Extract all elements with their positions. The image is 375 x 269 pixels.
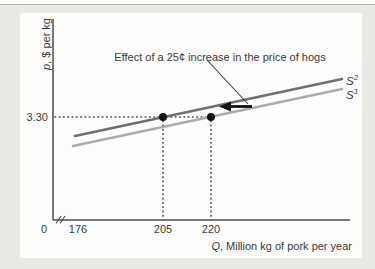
annotation-pointer-line	[207, 60, 248, 104]
x-axis-label-text: , Million kg of pork per year	[220, 240, 352, 252]
equilibrium-dot-s1	[207, 113, 215, 121]
x-axis-label: Q, Million kg of pork per year	[150, 240, 352, 253]
x-axis-symbol: Q	[211, 240, 220, 252]
x-tick-205: 205	[147, 223, 179, 236]
curve-s1-superscript: 1	[354, 87, 358, 96]
x-tick-220: 220	[195, 223, 227, 236]
supply-shift-chart	[0, 0, 375, 269]
supply-curve-s2	[75, 79, 342, 136]
x-tick-0: 0	[36, 223, 52, 236]
curve-s1-letter: S	[346, 89, 354, 101]
y-axis-symbol: p	[40, 64, 52, 70]
curve-label-s1: S1	[346, 85, 358, 102]
equilibrium-dot-s2	[159, 113, 167, 121]
annotation-text: Effect of a 25¢ increase in the price of…	[90, 51, 350, 64]
curve-s2-superscript: 2	[354, 73, 358, 82]
y-axis-label-text: , $ per kg	[40, 18, 52, 64]
y-tick-3-30: 3.30	[14, 111, 48, 124]
x-tick-176: 176	[62, 223, 94, 236]
y-axis-label: p, $ per kg	[40, 18, 52, 70]
